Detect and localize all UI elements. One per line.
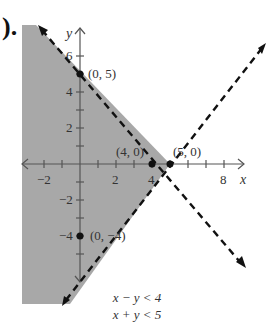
y-tick-label: 6 xyxy=(66,48,73,63)
y-axis-label: y xyxy=(64,26,73,41)
point-label-0-neg4: (0, −4) xyxy=(90,228,126,243)
x-tick-label: −2 xyxy=(37,172,51,187)
x-tick-label: 2 xyxy=(112,172,119,187)
point-label-5-0: (5, 0) xyxy=(173,144,201,159)
point-0-5 xyxy=(77,71,84,78)
point-0-neg4 xyxy=(77,233,84,240)
point-label-0-5: (0, 5) xyxy=(88,66,116,81)
inequality-graph: −2 2 4 8 x 6 4 2 −2 −4 y (0, 5) (4, 0) (… xyxy=(0,0,274,331)
point-label-4-0: (4, 0) xyxy=(116,144,144,159)
inequality-1: x − y < 4 xyxy=(0,290,274,306)
y-tick-label: −2 xyxy=(59,192,73,207)
y-tick-label: 4 xyxy=(66,84,73,99)
inequality-2: x + y < 5 xyxy=(0,307,274,323)
y-tick-label: −4 xyxy=(59,228,73,243)
point-5-0 xyxy=(167,161,174,168)
x-tick-label: 8 xyxy=(220,172,227,187)
x-tick-label: 4 xyxy=(148,172,155,187)
x-axis-label: x xyxy=(239,172,247,187)
point-4-0 xyxy=(149,161,156,168)
y-tick-label: 2 xyxy=(66,120,73,135)
